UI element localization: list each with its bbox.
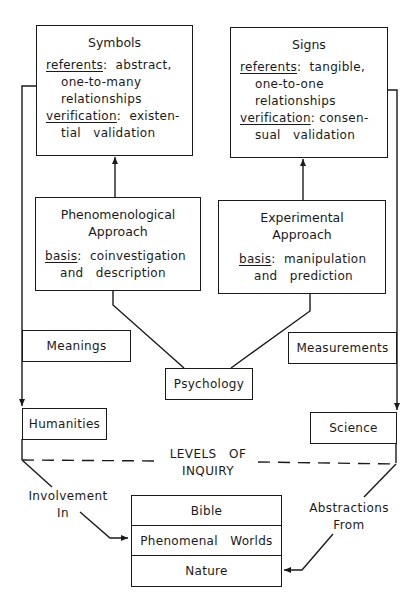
signs-verification-line2: sual validation: [240, 127, 387, 144]
experimental-approach-box: Experimental Approach basis: manipulatio…: [218, 200, 386, 294]
meanings-box: Meanings: [22, 330, 131, 362]
experimental-title-line1: Experimental: [219, 209, 385, 226]
signs-referents-line3: relationships: [240, 93, 387, 110]
phenomenological-title-line2: Approach: [36, 223, 200, 240]
measurements-box: Measurements: [288, 332, 397, 364]
involvement-line2: In: [18, 505, 108, 522]
stack-row-bible: Bible: [132, 496, 281, 526]
verification-label: verification: [240, 111, 311, 125]
experimental-basis: basis: manipulation: [239, 251, 385, 268]
involvement-line1: Involvement: [28, 488, 108, 505]
experimental-basis-line2: and prediction: [239, 268, 385, 285]
psychology-box: Psychology: [165, 368, 253, 400]
experimental-title-line2: Approach: [219, 226, 385, 243]
science-box: Science: [310, 412, 397, 444]
basis-label: basis: [45, 249, 77, 263]
symbols-referents: referents: abstract,: [46, 57, 192, 74]
symbols-verification: verification: existen-: [46, 108, 192, 125]
levels-dashed-line-left: [22, 460, 160, 461]
levels-of-inquiry-label: LEVELS OF INQUIRY: [158, 446, 258, 480]
abstractions-line1: Abstractions: [308, 500, 390, 517]
phenomenological-approach-box: Phenomenological Approach basis: coinves…: [35, 197, 201, 291]
phenomenological-basis: basis: coinvestigation: [45, 248, 200, 265]
verification-label: verification: [46, 109, 117, 123]
symbols-box: Symbols referents: abstract, one-to-many…: [36, 25, 193, 156]
levels-line2: INQUIRY: [158, 463, 258, 480]
diagram-canvas: Symbols referents: abstract, one-to-many…: [0, 0, 417, 613]
symbols-referents-line3: relationships: [46, 91, 192, 108]
basis-label: basis: [239, 252, 271, 266]
symbols-verification-line2: tial validation: [46, 125, 192, 142]
referents-label: referents: [46, 58, 103, 72]
humanities-box: Humanities: [22, 408, 107, 440]
arrow-abstractions-to-nature: [284, 534, 333, 570]
abstractions-line2: From: [308, 517, 390, 534]
worlds-stack: Bible Phenomenal Worlds Nature: [131, 495, 282, 587]
levels-line1: LEVELS OF: [158, 446, 258, 463]
stack-row-nature: Nature: [132, 556, 281, 585]
signs-referents: referents: tangible,: [240, 59, 387, 76]
symbols-referents-line2: one-to-many: [46, 74, 192, 91]
involvement-in-label: Involvement In: [28, 488, 108, 522]
abstractions-from-label: Abstractions From: [308, 500, 390, 534]
signs-title: Signs: [231, 36, 387, 53]
phenomenological-basis-line2: and description: [45, 265, 200, 282]
levels-dashed-line-right: [258, 462, 396, 464]
signs-verification: verification: consen-: [240, 110, 387, 127]
referents-label: referents: [240, 60, 297, 74]
signs-referents-line2: one-to-one: [240, 76, 387, 93]
symbols-title: Symbols: [37, 34, 192, 51]
phenomenological-title-line1: Phenomenological: [36, 206, 200, 223]
signs-box: Signs referents: tangible, one-to-one re…: [230, 27, 388, 158]
stack-row-phenomenal-worlds: Phenomenal Worlds: [132, 526, 281, 556]
